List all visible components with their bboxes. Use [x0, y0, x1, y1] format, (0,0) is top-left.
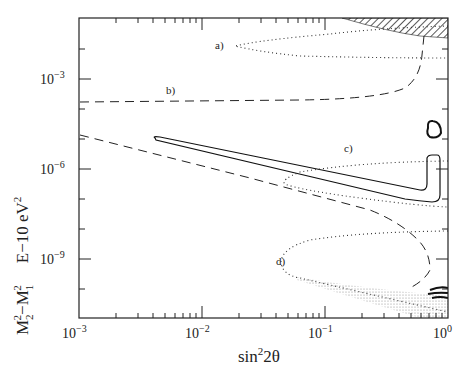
curve-c — [154, 137, 440, 202]
x-tick-label-1e0: 100 — [433, 323, 452, 341]
y-axis-title: M22−M12E−10 eV2 — [11, 197, 35, 335]
annotation-a: a) — [215, 39, 224, 52]
annotation-c: c) — [344, 142, 353, 155]
x-tick-label-1e-3: 10−3 — [62, 323, 87, 341]
y-tick-label-1e-6: 10−6 — [40, 159, 65, 177]
curve-d-stipple — [297, 277, 448, 318]
annotation-d: d) — [276, 255, 286, 268]
y-axis-ticks — [79, 49, 448, 289]
exclusion-plot: 10−3 10−2 10−1 100 10−3 10−6 10−9 sin22θ… — [0, 0, 474, 375]
x-tick-label-1e-1: 10−1 — [308, 323, 333, 341]
plot-area — [80, 18, 448, 318]
annotation-b: b) — [166, 84, 176, 97]
y-tick-label-1e-3: 10−3 — [40, 69, 65, 87]
axes-frame — [79, 18, 448, 318]
curve-diagonal-dashed — [80, 135, 430, 288]
x-tick-label-1e-2: 10−2 — [185, 323, 210, 341]
y-tick-label-1e-9: 10−9 — [40, 249, 65, 267]
x-axis-title: sin22θ — [238, 345, 280, 366]
curve-c-island — [427, 121, 441, 138]
curve-b — [80, 36, 424, 102]
x-axis-ticks — [116, 18, 442, 318]
